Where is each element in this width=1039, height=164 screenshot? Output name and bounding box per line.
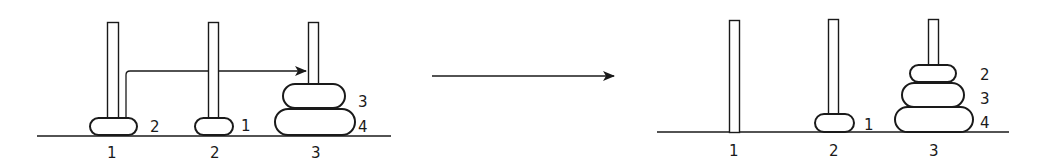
peg-1 [730, 21, 740, 133]
peg-label: 2 [210, 144, 220, 162]
disk-label: 4 [980, 114, 990, 132]
disk-1 [195, 118, 233, 135]
peg-3 [929, 20, 939, 66]
disk-label: 3 [980, 90, 990, 108]
disk-label: 4 [358, 118, 368, 136]
peg-2 [829, 20, 839, 115]
tower-of-hanoi-diagram: 2 1 3 4 1 2 3 1 2 3 4 [0, 0, 1039, 164]
after-state-panel: 1 2 3 4 1 2 3 [657, 20, 1009, 161]
disk-3 [902, 83, 964, 107]
disk-2 [910, 65, 956, 82]
peg-label: 3 [311, 144, 321, 162]
peg-2 [209, 23, 219, 119]
disk-3 [283, 84, 345, 108]
disk-label: 3 [358, 93, 368, 111]
disk-label: 2 [150, 118, 160, 136]
disk-4 [895, 107, 973, 132]
peg-label: 2 [829, 142, 839, 160]
peg-3 [309, 23, 319, 85]
peg-1 [108, 23, 119, 119]
peg-label: 1 [107, 144, 117, 162]
disk-label: 2 [980, 66, 990, 84]
disk-1 [815, 114, 854, 132]
disk-4 [275, 109, 355, 135]
before-state-panel: 2 1 3 4 1 2 3 [37, 23, 391, 163]
disk-label: 1 [241, 117, 251, 135]
peg-label: 1 [729, 142, 739, 160]
disk-label: 1 [864, 116, 874, 134]
peg-label: 3 [929, 142, 939, 160]
disk-2 [90, 118, 137, 135]
